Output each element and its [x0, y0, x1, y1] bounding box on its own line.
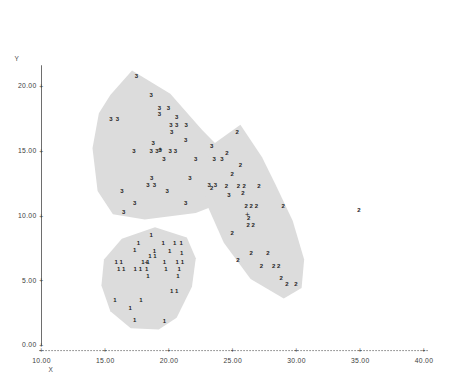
- x-tick-label-1: 15.00: [96, 357, 115, 364]
- x-axis-dot: [76, 350, 77, 351]
- x-axis-dot: [124, 350, 125, 351]
- x-axis-dot: [289, 350, 290, 351]
- x-axis-dot: [130, 350, 131, 351]
- x-axis-dot: [67, 350, 68, 351]
- x-axis-dot: [58, 350, 59, 351]
- x-axis-dot: [91, 350, 92, 351]
- x-axis-dot: [196, 350, 197, 351]
- x-axis-dot: [241, 350, 242, 351]
- x-axis-dot: [190, 350, 191, 351]
- y-axis-title: Y: [15, 55, 20, 62]
- x-axis-dot: [409, 350, 410, 351]
- x-axis-dot: [121, 350, 122, 351]
- x-axis-dot: [73, 350, 74, 351]
- y-tick-mark-3: +: [39, 148, 43, 155]
- x-axis-dot: [178, 350, 179, 351]
- cluster-centroid-1: +: [144, 258, 149, 267]
- x-axis-dot: [310, 350, 311, 351]
- x-axis-dot: [325, 350, 326, 351]
- x-axis-dot: [115, 350, 116, 351]
- x-axis-dot: [247, 350, 248, 351]
- x-axis-dot: [136, 350, 137, 351]
- x-axis-dot: [355, 350, 356, 351]
- x-axis-dot: [160, 350, 161, 351]
- y-tick-label-2: 10.00: [18, 212, 37, 219]
- x-axis-dot: [148, 350, 149, 351]
- x-axis-dot: [253, 350, 254, 351]
- x-tick-mark-5: +: [358, 347, 362, 354]
- x-axis-dot: [61, 350, 62, 351]
- y-tick-label-4: 20.00: [18, 82, 37, 89]
- x-axis-dot: [256, 350, 257, 351]
- x-axis-dot: [133, 350, 134, 351]
- x-axis-dot: [211, 350, 212, 351]
- x-axis-dot: [376, 350, 377, 351]
- y-tick-mark-4: +: [39, 83, 43, 90]
- x-axis-dot: [283, 350, 284, 351]
- x-axis-dot: [145, 350, 146, 351]
- x-axis-dot: [172, 350, 173, 351]
- x-axis-dot: [328, 350, 329, 351]
- x-axis-dot: [352, 350, 353, 351]
- x-tick-label-5: 35.00: [351, 357, 370, 364]
- x-axis-dot: [250, 350, 251, 351]
- x-axis-dot: [379, 350, 380, 351]
- x-tick-label-4: 30.00: [287, 357, 306, 364]
- x-axis-dot: [268, 350, 269, 351]
- x-axis-dot: [187, 350, 188, 351]
- x-axis-dot: [127, 350, 128, 351]
- x-tick-label-3: 25.00: [223, 357, 242, 364]
- x-axis-dot: [391, 350, 392, 351]
- x-axis-dot: [64, 350, 65, 351]
- y-tick-label-0: 0.00: [22, 341, 36, 348]
- x-axis-dot: [184, 350, 185, 351]
- y-tick-label-1: 5.00: [22, 277, 36, 284]
- x-axis-dot: [415, 350, 416, 351]
- x-axis-dot: [337, 350, 338, 351]
- x-axis-dot: [400, 350, 401, 351]
- x-axis-dot: [82, 350, 83, 351]
- y-tick-label-3: 15.00: [18, 147, 37, 154]
- x-tick-mark-1: +: [103, 347, 107, 354]
- x-axis-dot: [367, 350, 368, 351]
- x-tick-label-6: 40.00: [415, 357, 434, 364]
- x-axis-dot: [226, 350, 227, 351]
- x-tick-mark-6: +: [422, 347, 426, 354]
- x-axis-dot: [220, 350, 221, 351]
- x-axis-dot: [418, 350, 419, 351]
- x-tick-mark-2: +: [167, 347, 171, 354]
- x-axis-dot: [214, 350, 215, 351]
- x-axis-dot: [85, 350, 86, 351]
- x-axis-dot: [340, 350, 341, 351]
- x-axis-dot: [46, 350, 47, 351]
- x-axis-dot: [331, 350, 332, 351]
- x-axis-dot: [118, 350, 119, 351]
- x-axis-dot: [262, 350, 263, 351]
- x-axis-dot: [79, 350, 80, 351]
- x-axis-dot: [100, 350, 101, 351]
- x-axis-dot: [316, 350, 317, 351]
- x-axis-dot: [202, 350, 203, 351]
- x-axis-dot: [334, 350, 335, 351]
- x-axis-dot: [94, 350, 95, 351]
- cluster-hull-2: [202, 125, 304, 299]
- x-tick-label-2: 20.00: [160, 357, 179, 364]
- x-axis-dot: [406, 350, 407, 351]
- cluster-centroid-3: +: [158, 145, 163, 154]
- x-axis-dot: [322, 350, 323, 351]
- x-axis-dot: [385, 350, 386, 351]
- x-axis-dot: [157, 350, 158, 351]
- x-axis-dot: [229, 350, 230, 351]
- x-axis-dot: [208, 350, 209, 351]
- x-axis-dot: [181, 350, 182, 351]
- x-axis-dot: [313, 350, 314, 351]
- x-axis-dot: [112, 350, 113, 351]
- x-axis-dot: [238, 350, 239, 351]
- x-axis-dot: [52, 350, 53, 351]
- y-tick-mark-2: +: [39, 213, 43, 220]
- x-tick-label-0: 10.00: [32, 357, 51, 364]
- x-axis-dot: [280, 350, 281, 351]
- x-axis-dot: [277, 350, 278, 351]
- x-axis-dot: [259, 350, 260, 351]
- x-axis-dot: [286, 350, 287, 351]
